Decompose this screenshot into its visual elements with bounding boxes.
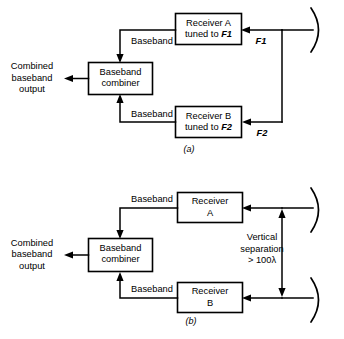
arrowhead-combiner-top <box>116 54 123 63</box>
panel-b-caption: (b) <box>186 316 197 326</box>
arrowhead-feed-receiver-a <box>241 26 250 33</box>
output-label-line2: baseband <box>12 73 53 83</box>
combiner-line1: Baseband <box>100 67 142 77</box>
output-label-line3-b: output <box>19 261 45 271</box>
separation-label-line1: Vertical <box>247 232 278 242</box>
baseband-label-top: Baseband <box>131 36 173 46</box>
arrowhead-combiner-bottom-b <box>116 272 123 281</box>
combiner-line1-b: Baseband <box>100 243 142 253</box>
arrowhead-feed-receiver-b-b <box>242 294 251 301</box>
arrowhead-feed-receiver-a-b <box>242 204 251 211</box>
receiver-b-line1: Receiver B <box>186 111 231 121</box>
arrowhead-separation-up <box>278 209 285 218</box>
arrowhead-separation-down <box>278 288 285 297</box>
antenna-upper-dish-icon <box>311 188 319 232</box>
separation-label-line3: > 100λ <box>248 255 277 265</box>
output-label-line1-b: Combined <box>11 238 53 248</box>
receiver-a-line1-b: Receiver <box>192 196 229 206</box>
receiver-a-line1: Receiver A <box>186 18 232 28</box>
receiver-b-line1-b: Receiver <box>192 286 229 296</box>
receiver-b-line2: tuned to F2 <box>185 122 233 132</box>
baseband-label-bottom: Baseband <box>131 109 173 119</box>
combiner-line2-b: combiner <box>101 254 139 264</box>
receiver-b-line2-b: B <box>207 298 213 308</box>
arrowhead-combiner-bottom <box>116 94 123 103</box>
antenna-lower <box>282 278 319 322</box>
arrowhead-combiner-top-b <box>116 230 123 239</box>
receiver-a-line2-b: A <box>207 208 214 218</box>
panel-b: Vertical separation > 100λ Receiver A Re… <box>11 188 319 326</box>
baseband-wire-top-b <box>120 208 178 231</box>
panel-a-caption: (a) <box>184 144 195 154</box>
antenna-lower-dish-icon <box>311 278 319 322</box>
arrowhead-output <box>64 75 73 82</box>
antenna-upper <box>282 188 319 232</box>
combiner-line2: combiner <box>101 78 139 88</box>
freq-label-f2: F2 <box>257 128 269 138</box>
figure-canvas: Receiver A tuned to F1 Receiver B tuned … <box>0 0 344 339</box>
panel-a: Receiver A tuned to F1 Receiver B tuned … <box>11 8 319 154</box>
baseband-label-bottom-b: Baseband <box>131 284 173 294</box>
diversity-receiver-figure: Receiver A tuned to F1 Receiver B tuned … <box>0 0 344 339</box>
arrowhead-output-b <box>64 251 73 258</box>
separation-label-line2: separation <box>240 244 283 254</box>
antenna-shared <box>282 8 319 52</box>
freq-label-f1: F1 <box>256 36 267 46</box>
baseband-label-top-b: Baseband <box>131 194 173 204</box>
receiver-a-line2: tuned to F1 <box>185 29 232 39</box>
output-label-line1: Combined <box>11 61 53 71</box>
arrowhead-feed-receiver-b <box>242 118 251 125</box>
receiver-a-tuned-prefix: tuned to <box>185 29 221 39</box>
output-label-line3: output <box>19 84 45 94</box>
output-label-line2-b: baseband <box>12 249 53 259</box>
